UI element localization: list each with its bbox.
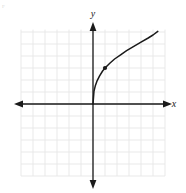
y-axis-label: y: [90, 8, 96, 19]
x-axis-arrow-right: [163, 101, 172, 108]
x-axis-arrow-left: [14, 101, 23, 108]
coordinate-plane-svg: F x y: [0, 0, 186, 193]
corner-mark: F: [2, 4, 5, 9]
x-axis-label: x: [171, 98, 177, 109]
graph-figure: F x y: [0, 0, 186, 193]
y-axis-arrow-down: [90, 180, 97, 189]
y-axis-arrow-up: [90, 22, 97, 31]
marked-point: [103, 66, 107, 70]
